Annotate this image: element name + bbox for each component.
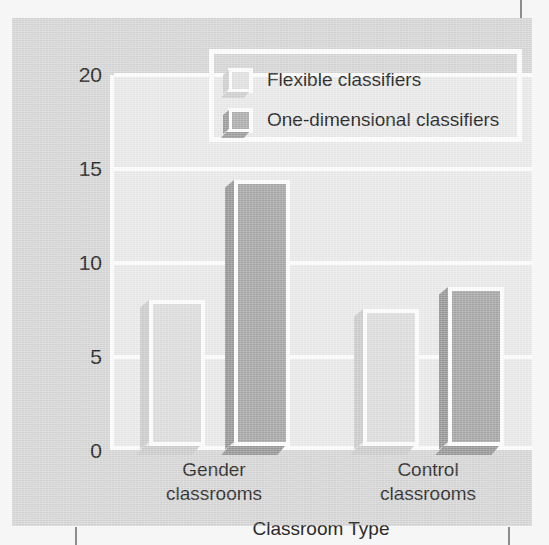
bar-shadow-bottom <box>221 446 285 455</box>
legend: Flexible classifiers One-dimensional cla… <box>209 49 522 142</box>
crop-mark-bottom-left <box>75 527 77 545</box>
bar-control-classrooms-flexible[interactable] <box>363 309 419 446</box>
gridline-10 <box>114 261 532 265</box>
x-group-label-line2: classrooms <box>338 482 518 506</box>
y-tick-label-5: 5 <box>56 345 102 369</box>
y-tick-label-10: 10 <box>56 251 102 275</box>
y-tick-label-0: 0 <box>56 439 102 463</box>
y-tick-label-15: 15 <box>56 157 102 181</box>
bar-shadow-left <box>439 287 448 450</box>
figure-panel: Mean Gender Stereotyping Score 20 15 10 … <box>12 18 532 526</box>
bar-shadow-bottom <box>136 446 200 455</box>
x-group-label-line1: Control <box>338 458 518 482</box>
x-group-label-line2: classrooms <box>124 482 304 506</box>
gridline-15 <box>114 167 532 171</box>
legend-label-one-dimensional: One-dimensional classifiers <box>267 109 499 131</box>
y-axis-tick-labels: 20 15 10 5 0 <box>50 75 102 450</box>
x-group-label-gender-classrooms: Gender classrooms <box>124 458 304 507</box>
legend-item-flexible[interactable]: Flexible classifiers <box>228 60 517 100</box>
bar-shadow-bottom <box>435 446 499 455</box>
bar-gender-classrooms-one-dimensional[interactable] <box>234 180 290 446</box>
bar-shadow-left <box>225 180 234 450</box>
y-tick-label-20: 20 <box>56 63 102 87</box>
x-group-label-control-classrooms: Control classrooms <box>338 458 518 507</box>
x-axis-group-labels: Gender classrooms Control classrooms <box>110 458 532 516</box>
x-axis-title: Classroom Type <box>110 518 532 540</box>
bar-shadow-left <box>140 300 149 450</box>
bar-shadow-bottom <box>350 446 414 455</box>
crop-mark-top-right <box>520 0 522 18</box>
legend-swatch-flexible-icon <box>228 68 253 93</box>
legend-label-flexible: Flexible classifiers <box>267 69 421 91</box>
bar-control-classrooms-one-dimensional[interactable] <box>448 287 504 446</box>
bar-shadow-left <box>354 309 363 449</box>
bar-gender-classrooms-flexible[interactable] <box>149 300 205 446</box>
x-group-label-line1: Gender <box>124 458 304 482</box>
legend-item-one-dimensional[interactable]: One-dimensional classifiers <box>228 100 517 140</box>
legend-swatch-one-dimensional-icon <box>228 108 253 133</box>
